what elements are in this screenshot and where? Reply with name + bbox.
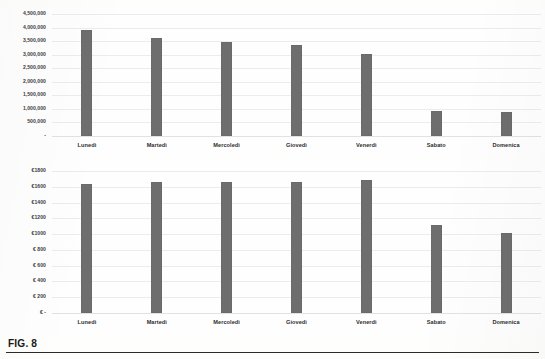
y-axis-tick-label: 1,500,000 bbox=[23, 93, 46, 98]
y-axis-tick-label: 2,000,000 bbox=[23, 79, 46, 84]
bar-slot bbox=[122, 171, 192, 313]
bar-giovedì bbox=[291, 182, 302, 313]
x-axis-label: Venerdì bbox=[331, 142, 401, 148]
bar-giovedì bbox=[291, 45, 302, 136]
x-axis-label: Sabato bbox=[401, 319, 471, 325]
bar-slot bbox=[52, 14, 122, 136]
bar-lunedì bbox=[81, 184, 92, 313]
bar-slot bbox=[262, 171, 332, 313]
caption-divider bbox=[6, 352, 539, 353]
plot-area-bottom bbox=[52, 171, 541, 313]
bar-slot bbox=[262, 14, 332, 136]
x-axis-label: Martedì bbox=[122, 142, 192, 148]
y-axis-tick-label: 3,000,000 bbox=[23, 52, 46, 57]
x-axis-top: LunedìMartedìMercoledìGiovedìVenerdìSaba… bbox=[52, 142, 541, 148]
x-axis-label: Mercoledì bbox=[192, 142, 262, 148]
y-axis-tick-label: 4,000,000 bbox=[23, 25, 46, 30]
gridline bbox=[52, 136, 541, 137]
y-axis-tick-label: 4,500,000 bbox=[23, 11, 46, 16]
bar-domenica bbox=[501, 233, 512, 313]
bar-martedì bbox=[151, 38, 162, 136]
x-axis-label: Lunedì bbox=[52, 142, 122, 148]
y-axis-tick-label: € 200 bbox=[33, 295, 46, 300]
bar-venerdì bbox=[361, 180, 372, 313]
x-axis-label: Lunedì bbox=[52, 319, 122, 325]
y-axis-tick-label: €1200 bbox=[32, 216, 46, 221]
bar-martedì bbox=[151, 182, 162, 313]
x-axis-label: Domenica bbox=[471, 142, 541, 148]
y-axis-tick-label: €1000 bbox=[32, 232, 46, 237]
plot-frame-bottom: €1800€1600€1400€1200€1000€ 800€ 600€ 400… bbox=[0, 163, 545, 335]
y-axis-tick-label: - bbox=[44, 133, 46, 138]
y-axis-top: 4,500,0004,000,0003,500,0003,000,0002,50… bbox=[0, 6, 50, 158]
bar-slot bbox=[471, 171, 541, 313]
y-axis-tick-label: € 600 bbox=[33, 263, 46, 268]
bar-slot bbox=[122, 14, 192, 136]
bar-slot bbox=[52, 171, 122, 313]
bar-chart-bottom: €1800€1600€1400€1200€1000€ 800€ 600€ 400… bbox=[0, 163, 545, 335]
bar-slot bbox=[192, 14, 262, 136]
y-axis-tick-label: 500,000 bbox=[27, 120, 46, 125]
bar-chart-top: 4,500,0004,000,0003,500,0003,000,0002,50… bbox=[0, 6, 545, 158]
y-axis-tick-label: €1800 bbox=[32, 168, 46, 173]
x-axis-label: Mercoledì bbox=[192, 319, 262, 325]
bar-sabato bbox=[431, 225, 442, 313]
y-axis-bottom: €1800€1600€1400€1200€1000€ 800€ 600€ 400… bbox=[0, 163, 50, 335]
bar-mercoledì bbox=[221, 42, 232, 136]
bar-domenica bbox=[501, 112, 512, 136]
x-axis-label: Giovedì bbox=[262, 142, 332, 148]
x-axis-label: Giovedì bbox=[262, 319, 332, 325]
y-axis-tick-label: 2,500,000 bbox=[23, 66, 46, 71]
x-axis-bottom: LunedìMartedìMercoledìGiovedìVenerdìSaba… bbox=[52, 319, 541, 325]
bar-venerdì bbox=[361, 54, 372, 136]
x-axis-label: Martedì bbox=[122, 319, 192, 325]
plot-area-top bbox=[52, 14, 541, 136]
bar-slot bbox=[331, 14, 401, 136]
plot-frame-top: 4,500,0004,000,0003,500,0003,000,0002,50… bbox=[0, 6, 545, 158]
bar-slot bbox=[401, 171, 471, 313]
bar-slot bbox=[331, 171, 401, 313]
y-axis-tick-label: € 400 bbox=[33, 279, 46, 284]
bar-sabato bbox=[431, 111, 442, 136]
x-axis-label: Venerdì bbox=[331, 319, 401, 325]
bar-slot bbox=[192, 171, 262, 313]
y-axis-tick-label: €1400 bbox=[32, 200, 46, 205]
y-axis-tick-label: 1,000,000 bbox=[23, 106, 46, 111]
x-axis-label: Sabato bbox=[401, 142, 471, 148]
figure-page: 4,500,0004,000,0003,500,0003,000,0002,50… bbox=[0, 0, 545, 359]
y-axis-tick-label: €1600 bbox=[32, 184, 46, 189]
y-axis-tick-label: 3,500,000 bbox=[23, 39, 46, 44]
y-axis-tick-label: € 800 bbox=[33, 247, 46, 252]
bar-lunedì bbox=[81, 30, 92, 136]
bar-mercoledì bbox=[221, 182, 232, 313]
bar-slot bbox=[401, 14, 471, 136]
gridline bbox=[52, 313, 541, 314]
bar-slot bbox=[471, 14, 541, 136]
y-axis-tick-label: € - bbox=[40, 310, 46, 315]
x-axis-label: Domenica bbox=[471, 319, 541, 325]
figure-caption: FIG. 8 bbox=[8, 337, 37, 349]
